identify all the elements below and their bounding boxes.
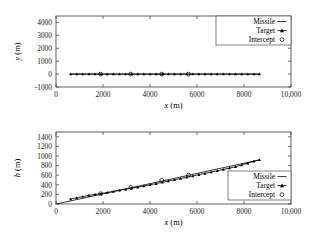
x-tick-label: 8000	[237, 207, 252, 216]
y-tick-label: 400	[41, 181, 52, 190]
y-axis-title-group: y (m)	[13, 42, 22, 61]
y-tick-label: 0	[48, 70, 52, 79]
y-tick-label: 200	[41, 190, 52, 199]
x-tick-label: 4000	[143, 207, 158, 216]
y-axis-title: h (m)	[13, 159, 22, 178]
y-axis-title: y (m)	[13, 42, 22, 61]
y-tick-label: 4000	[37, 18, 52, 27]
x-tick-label: 8000	[237, 90, 252, 99]
x-tick-label: 6000	[190, 207, 205, 216]
legend-label-missile: Missile	[253, 172, 275, 181]
legend-label-intercept: Intercept	[249, 35, 276, 44]
x-axis-title: x (m)	[164, 101, 183, 110]
chart-panel-bottom: 0200040006000800010,00002004006008001000…	[0, 118, 319, 236]
y-axis-title-group: h (m)	[13, 159, 22, 178]
chart-panel-top: 0200040006000800010,000-1000010002000300…	[0, 0, 319, 118]
y-tick-label: 2000	[37, 44, 52, 53]
chart-top-svg: 0200040006000800010,000-1000010002000300…	[0, 0, 319, 118]
legend-label-intercept: Intercept	[249, 190, 276, 199]
x-axis-title: x (m)	[164, 218, 183, 227]
y-tick-label: 1000	[37, 152, 52, 161]
y-tick-label: 1200	[37, 142, 52, 151]
y-tick-label: 600	[41, 171, 52, 180]
figure-trajectory-plots: 0200040006000800010,000-1000010002000300…	[0, 0, 319, 236]
x-tick-label: 2000	[96, 207, 111, 216]
x-tick-label: 4000	[143, 90, 158, 99]
chart-bottom-svg: 0200040006000800010,00002004006008001000…	[0, 118, 319, 236]
y-tick-label: 1400	[37, 133, 52, 142]
legend-label-target: Target	[256, 26, 276, 35]
y-tick-label: -1000	[35, 83, 53, 92]
legend-label-target: Target	[256, 181, 276, 190]
y-tick-label: 3000	[37, 31, 52, 40]
y-tick-label: 800	[41, 161, 52, 170]
x-tick-label: 0	[54, 207, 58, 216]
x-tick-label: 2000	[96, 90, 111, 99]
x-tick-label: 0	[54, 90, 58, 99]
y-tick-label: 0	[48, 200, 52, 209]
legend-label-missile: Missile	[253, 17, 275, 26]
x-tick-label: 10,000	[281, 90, 302, 99]
x-tick-label: 6000	[190, 90, 205, 99]
y-tick-label: 1000	[37, 57, 52, 66]
x-tick-label: 10,000	[281, 207, 302, 216]
